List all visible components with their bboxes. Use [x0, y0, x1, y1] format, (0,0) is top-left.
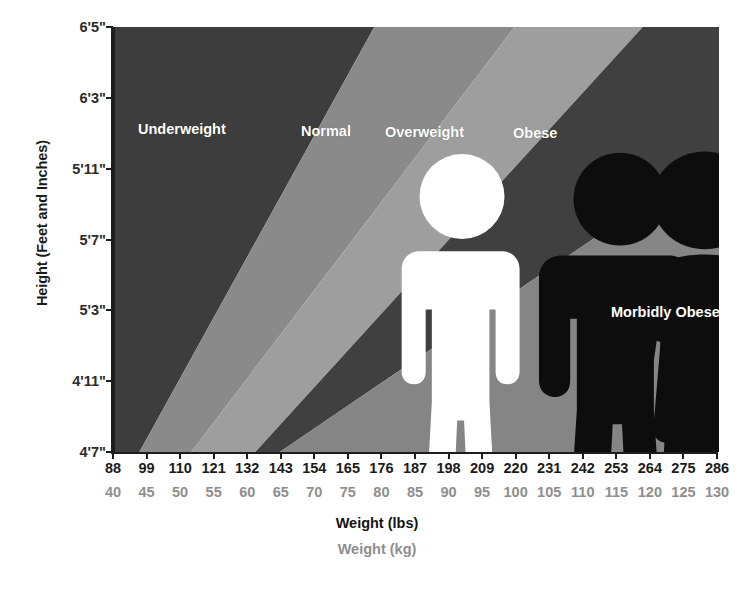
x-axis-title-kg: Weight (kg): [0, 541, 754, 557]
x-tick-mark: [481, 452, 483, 459]
x-tick-mark: [414, 452, 416, 459]
x-tick-label-lbs: 209: [470, 460, 494, 476]
x-tick-mark: [380, 452, 382, 459]
plot-area: Underweight Normal Overweight Obese Morb…: [113, 27, 719, 452]
x-tick-mark: [682, 452, 684, 459]
x-tick-mark: [716, 452, 718, 459]
x-tick-label-kg: 70: [306, 484, 322, 500]
x-tick-mark: [548, 452, 550, 459]
x-tick-label-lbs: 121: [202, 460, 226, 476]
x-tick-label-kg: 115: [605, 484, 628, 500]
x-tick-label-lbs: 143: [269, 460, 293, 476]
x-tick-label-kg: 55: [206, 484, 222, 500]
band-label-normal: Normal: [301, 123, 351, 139]
x-tick-label-kg: 65: [273, 484, 289, 500]
x-tick-label-kg: 120: [638, 484, 662, 500]
y-tick-label: 6'3": [42, 90, 106, 106]
x-tick-label-kg: 50: [172, 484, 188, 500]
x-tick-label-lbs: 253: [604, 460, 628, 476]
x-tick-label-lbs: 88: [105, 460, 121, 476]
x-tick-label-lbs: 220: [504, 460, 528, 476]
y-axis-tick-labels: 6'5"6'3"5'11"5'7"5'3"4'11"4'7": [38, 0, 106, 595]
x-tick-mark: [213, 452, 215, 459]
x-tick-mark: [649, 452, 651, 459]
x-tick-label-kg: 60: [239, 484, 255, 500]
x-tick-label-lbs: 198: [436, 460, 460, 476]
x-tick-label-lbs: 154: [302, 460, 326, 476]
y-tick-label: 6'5": [42, 19, 106, 35]
x-tick-label-lbs: 275: [671, 460, 695, 476]
x-tick-label-lbs: 231: [537, 460, 561, 476]
x-tick-mark: [313, 452, 315, 459]
band-label-underweight: Underweight: [138, 121, 226, 137]
y-tick-label: 5'7": [42, 232, 106, 248]
person-morbidly-obese-icon: [660, 329, 719, 452]
x-tick-label-kg: 130: [705, 484, 729, 500]
x-tick-label-lbs: 286: [705, 460, 729, 476]
x-axis-title-lbs: Weight (lbs): [0, 515, 754, 531]
x-tick-mark: [179, 452, 181, 459]
x-tick-label-kg: 125: [671, 484, 695, 500]
x-tick-label-kg: 40: [105, 484, 121, 500]
bmi-chart: Height (Feet and Inches) 6'5"6'3"5'11"5'…: [0, 0, 754, 595]
x-axis-tick-labels-lbs: 8899110121132143154165176187198209220231…: [0, 460, 754, 480]
x-tick-mark: [347, 452, 349, 459]
x-tick-mark: [280, 452, 282, 459]
x-tick-label-kg: 75: [340, 484, 356, 500]
x-tick-label-lbs: 264: [638, 460, 662, 476]
x-tick-label-lbs: 176: [369, 460, 393, 476]
x-tick-mark: [582, 452, 584, 459]
x-tick-label-kg: 85: [407, 484, 423, 500]
x-tick-mark: [515, 452, 517, 459]
y-tick-label: 4'11": [42, 373, 106, 389]
x-tick-label-lbs: 110: [168, 460, 191, 476]
x-tick-label-kg: 100: [504, 484, 528, 500]
x-tick-label-kg: 110: [571, 484, 594, 500]
x-tick-label-kg: 105: [537, 484, 561, 500]
x-tick-label-kg: 90: [440, 484, 456, 500]
y-tick-label: 5'3": [42, 302, 106, 318]
x-tick-label-kg: 95: [474, 484, 490, 500]
x-tick-label-kg: 80: [373, 484, 389, 500]
x-tick-label-lbs: 99: [138, 460, 154, 476]
x-tick-mark: [615, 452, 617, 459]
x-tick-label-lbs: 242: [571, 460, 595, 476]
band-label-obese: Obese: [513, 125, 557, 141]
x-tick-mark: [448, 452, 450, 459]
y-tick-label: 5'11": [42, 161, 106, 177]
x-tick-label-kg: 45: [138, 484, 154, 500]
x-axis-tick-labels-kg: 4045505560657075808590951001051101151201…: [0, 484, 754, 504]
x-tick-mark: [112, 452, 114, 459]
x-tick-mark: [146, 452, 148, 459]
band-label-morbidly-obese: Morbidly Obese: [611, 304, 719, 320]
band-label-overweight: Overweight: [385, 124, 464, 140]
x-tick-label-lbs: 132: [235, 460, 259, 476]
x-tick-mark: [246, 452, 248, 459]
x-tick-label-lbs: 187: [403, 460, 427, 476]
x-tick-label-lbs: 165: [336, 460, 360, 476]
x-axis-ticks: [0, 452, 754, 460]
